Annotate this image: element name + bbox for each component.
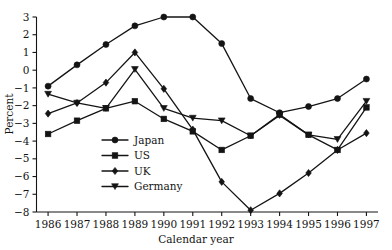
data-point-marker (74, 118, 80, 124)
series-line (48, 101, 366, 150)
x-tick-label: 1995 (295, 218, 322, 230)
data-point-marker (45, 83, 51, 89)
x-tick-label: 1990 (150, 218, 177, 230)
x-tick-label: 1997 (353, 218, 380, 230)
data-point-marker (219, 41, 225, 47)
y-tick-label: −4 (14, 135, 30, 147)
y-tick-label: −3 (14, 117, 29, 129)
x-tick-label: 1989 (122, 218, 149, 230)
data-point-marker (45, 110, 51, 117)
data-point-marker (363, 76, 369, 82)
x-tick-label: 1992 (208, 218, 235, 230)
series-germany (45, 67, 370, 143)
chart-legend: JapanUSUKGermany (102, 134, 183, 193)
data-point-marker (161, 14, 167, 20)
x-tick-label: 1986 (35, 218, 62, 230)
x-tick-label: 1988 (93, 218, 120, 230)
y-tick-label: −1 (14, 82, 29, 94)
legend-marker-diamond (112, 167, 118, 174)
legend-label: Germany (134, 180, 183, 192)
legend-item-uk: UK (102, 165, 151, 177)
x-tick-label: 1994 (266, 218, 293, 230)
y-tick-label: −6 (14, 170, 30, 182)
series-line (48, 52, 366, 210)
y-tick-label: 2 (23, 28, 30, 40)
legend-marker-circle (112, 137, 118, 143)
data-point-marker (306, 169, 312, 176)
legend-item-us: US (102, 149, 150, 161)
y-tick-label: −7 (14, 188, 29, 200)
legend-label: Japan (133, 134, 164, 146)
chart-figure: 3210−1−2−3−4−5−6−7−8 1986198719881989199… (0, 0, 392, 250)
y-tick-label: −5 (14, 152, 29, 164)
legend-label: US (134, 149, 150, 161)
legend-item-japan: Japan (102, 134, 164, 146)
data-point-marker (74, 62, 80, 68)
y-tick-label: 0 (23, 64, 30, 76)
y-tick-label: −8 (14, 206, 29, 218)
data-point-marker (132, 98, 138, 104)
data-point-marker (334, 96, 340, 102)
series-uk (45, 49, 369, 214)
data-point-marker (45, 131, 51, 137)
data-point-marker (190, 14, 196, 20)
data-point-marker (364, 130, 370, 137)
series-japan (45, 14, 369, 116)
data-point-marker (132, 23, 138, 29)
x-axis-title: Calendar year (158, 233, 234, 245)
y-axis-title: Percent (3, 93, 15, 135)
data-point-marker (306, 104, 312, 110)
legend-marker-square (112, 153, 118, 159)
legend-item-germany: Germany (102, 180, 183, 192)
line-chart: 3210−1−2−3−4−5−6−7−8 1986198719881989199… (0, 0, 392, 250)
y-tick-label: 1 (23, 46, 30, 58)
legend-label: UK (134, 165, 151, 177)
series-line (48, 17, 366, 113)
data-point-marker (161, 116, 167, 122)
data-series-group (45, 14, 370, 214)
y-tick-label: 3 (23, 11, 30, 23)
x-tick-label: 1996 (324, 218, 351, 230)
data-point-marker (277, 190, 283, 197)
x-tick-label: 1987 (64, 218, 91, 230)
y-axis-tick-group: 3210−1−2−3−4−5−6−7−8 (14, 11, 36, 218)
data-point-marker (219, 147, 225, 153)
x-tick-label: 1993 (237, 218, 264, 230)
x-tick-label: 1991 (179, 218, 206, 230)
data-point-marker (103, 41, 109, 47)
data-point-marker (364, 105, 370, 111)
data-point-marker (248, 96, 254, 102)
x-axis-tick-group: 1986198719881989199019911992199319941995… (35, 212, 380, 230)
y-tick-label: −2 (14, 99, 29, 111)
